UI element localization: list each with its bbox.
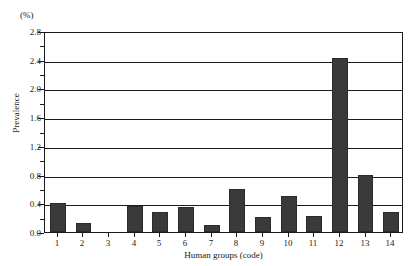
y-tick-label: 2.8 [1,28,41,37]
x-tick-label: 2 [69,238,95,249]
bar [306,216,322,232]
x-axis-title: Human groups (code) [44,250,403,261]
x-tick [134,233,135,237]
x-tick-label: 8 [223,238,249,249]
x-tick-label: 5 [146,238,172,249]
x-tick-label: 7 [198,238,224,249]
y-tick-label: 2.4 [1,57,41,66]
x-tick [262,233,263,237]
gridline [45,119,402,120]
x-tick-label: 12 [326,238,352,249]
x-tick [365,233,366,237]
y-tick-label: 1.2 [1,143,41,152]
x-tick [288,233,289,237]
bar [76,223,92,232]
x-tick [159,233,160,237]
x-tick-label: 11 [300,238,326,249]
bar [127,206,143,232]
bar [204,225,220,232]
bar [152,212,168,232]
y-axis-tick-labels: 0.00.40.81.21.62.02.42.8 [0,32,41,233]
x-tick-label: 9 [249,238,275,249]
bar [383,212,399,232]
x-axis-tick-labels: 1234567891011121314 [44,238,403,250]
bar [358,175,374,232]
bar [229,189,245,232]
plot-inner [45,33,402,232]
y-tick-label: 0.8 [1,172,41,181]
bar [332,58,348,232]
chart-screenshot: (%) Prevalence 0.00.40.81.21.62.02.42.8 … [0,0,413,266]
bar [178,207,194,232]
x-tick [211,233,212,237]
x-tick [108,233,109,237]
bar [50,203,66,232]
x-tick-label: 6 [172,238,198,249]
gridline [45,90,402,91]
gridline [45,148,402,149]
y-tick-label: 2.0 [1,85,41,94]
y-tick-label: 1.6 [1,114,41,123]
x-tick [82,233,83,237]
gridline [45,205,402,206]
bar [281,196,297,232]
x-tick-label: 14 [377,238,403,249]
x-tick [313,233,314,237]
gridline [45,62,402,63]
y-tick-label: 0.0 [1,229,41,238]
x-tick [57,233,58,237]
x-tick [236,233,237,237]
y-tick-label: 0.4 [1,200,41,209]
x-tick [185,233,186,237]
y-axis-unit-label: (%) [20,10,34,20]
x-tick-label: 13 [352,238,378,249]
x-tick [339,233,340,237]
x-tick-label: 1 [44,238,70,249]
x-tick [390,233,391,237]
gridline [45,177,402,178]
bar [255,217,271,232]
x-tick-label: 3 [95,238,121,249]
x-tick-label: 10 [275,238,301,249]
plot-area [44,32,403,233]
x-tick-label: 4 [121,238,147,249]
